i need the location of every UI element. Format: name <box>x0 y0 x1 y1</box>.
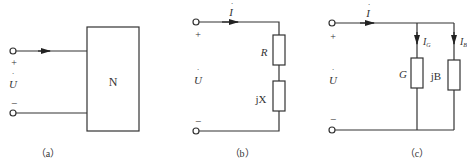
phasor-dot: · <box>12 69 15 78</box>
resistor-R <box>273 35 285 65</box>
caption-c: （c） <box>405 148 429 159</box>
terminal-top <box>10 48 16 54</box>
caption-a: （a） <box>36 148 60 159</box>
network-label: N <box>109 75 118 89</box>
wire-bottom <box>199 111 279 131</box>
branch-G-current-label: IG <box>422 36 431 48</box>
voltage-label: U <box>9 78 18 90</box>
voltage-label: U <box>329 74 338 86</box>
terminal-top <box>193 19 199 25</box>
phasor-dot: · <box>368 0 371 9</box>
caption-b: （b） <box>230 148 255 159</box>
wire-top <box>199 22 279 35</box>
minus-sign: − <box>330 113 336 125</box>
panel-b: I · + U · − R jX （b） <box>193 0 285 159</box>
reactance-jX <box>273 81 285 111</box>
branch-B-current-label: IB <box>459 36 467 48</box>
plus-sign: + <box>11 57 17 68</box>
phasor-dot: · <box>231 0 234 8</box>
terminal-bottom <box>193 128 199 134</box>
panel-a: N + U · − （a） <box>9 27 139 159</box>
phasor-dot: · <box>332 65 335 74</box>
conductance-G <box>411 58 423 88</box>
terminal-bottom <box>329 127 335 133</box>
phasor-dot: · <box>197 65 200 74</box>
voltage-label: U <box>194 74 203 86</box>
reactance-label: jX <box>255 93 267 105</box>
terminal-bottom <box>10 110 16 116</box>
plus-sign: + <box>195 29 201 40</box>
susceptance-jB <box>448 60 460 90</box>
conductance-label: G <box>399 68 407 80</box>
susceptance-label: jB <box>430 70 441 82</box>
terminal-top <box>329 20 335 26</box>
plus-sign: + <box>330 31 336 42</box>
circuit-diagram: N + U · − （a） I · + U · − R jX （b） <box>0 0 467 165</box>
resistor-label: R <box>260 46 268 58</box>
minus-sign: − <box>195 115 201 127</box>
minus-sign: − <box>11 97 17 109</box>
panel-c: I · + U · − IG IB G jB （c） <box>329 0 467 159</box>
